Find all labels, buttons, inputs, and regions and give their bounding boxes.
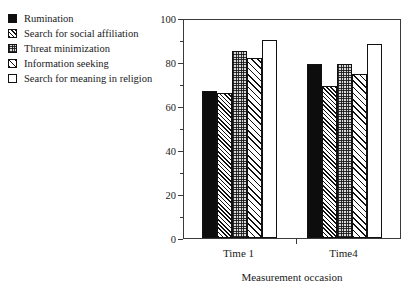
legend-item-label: Search for social affiliation bbox=[24, 27, 138, 40]
y-axis-tick bbox=[178, 239, 183, 240]
legend-item: Information seeking bbox=[8, 56, 168, 71]
legend-item-label: Threat minimization bbox=[24, 42, 110, 55]
y-axis-tick-label: 40 bbox=[166, 146, 177, 157]
legend-item-label: Rumination bbox=[24, 12, 74, 25]
legend-swatch-hatch-dense-icon bbox=[8, 29, 17, 38]
bar bbox=[232, 51, 247, 238]
y-axis-tick-label: 60 bbox=[166, 102, 177, 113]
legend-item-label: Information seeking bbox=[24, 57, 109, 70]
bar bbox=[337, 64, 352, 238]
bar bbox=[367, 44, 382, 238]
bar bbox=[352, 74, 367, 238]
bars-layer bbox=[184, 20, 400, 238]
y-axis-tick-label: 0 bbox=[171, 234, 176, 245]
chart-legend: RuminationSearch for social affiliationT… bbox=[8, 11, 168, 86]
y-axis-tick-label: 20 bbox=[166, 190, 177, 201]
x-axis-tick bbox=[296, 239, 297, 244]
legend-swatch-hatch-light-icon bbox=[8, 59, 17, 68]
x-axis-category-label: Time 1 bbox=[223, 247, 254, 259]
y-axis-tick-label: 80 bbox=[166, 58, 177, 69]
bar bbox=[307, 64, 322, 238]
x-axis-title: Measurement occasion bbox=[241, 271, 342, 283]
y-axis-tick-label: 100 bbox=[160, 14, 176, 25]
bar bbox=[322, 86, 337, 238]
x-axis-category-label: Time4 bbox=[329, 247, 357, 259]
legend-swatch-solid-icon bbox=[8, 14, 17, 23]
legend-item: Search for meaning in religion bbox=[8, 71, 168, 86]
legend-item: Rumination bbox=[8, 11, 168, 26]
legend-item-label: Search for meaning in religion bbox=[24, 72, 152, 85]
bar bbox=[262, 40, 277, 238]
bar bbox=[247, 58, 262, 238]
legend-item: Search for social affiliation bbox=[8, 26, 168, 41]
legend-swatch-stipple-icon bbox=[8, 44, 17, 53]
plot-area bbox=[183, 19, 401, 239]
bar bbox=[202, 91, 217, 238]
bar bbox=[217, 93, 232, 238]
legend-swatch-empty-icon bbox=[8, 74, 17, 83]
legend-item: Threat minimization bbox=[8, 41, 168, 56]
